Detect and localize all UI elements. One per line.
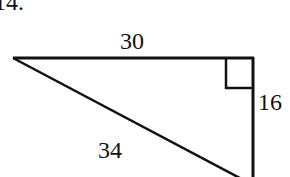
- diagram-canvas: 14. 30 16 34: [0, 0, 290, 177]
- hypotenuse-label: 34: [98, 138, 122, 162]
- right-side-label: 16: [258, 90, 282, 114]
- hypotenuse-line: [13, 58, 253, 177]
- right-triangle-figure: [0, 0, 290, 177]
- problem-number: 14.: [0, 0, 24, 14]
- top-side-label: 30: [120, 29, 144, 53]
- right-angle-marker-icon: [226, 58, 253, 88]
